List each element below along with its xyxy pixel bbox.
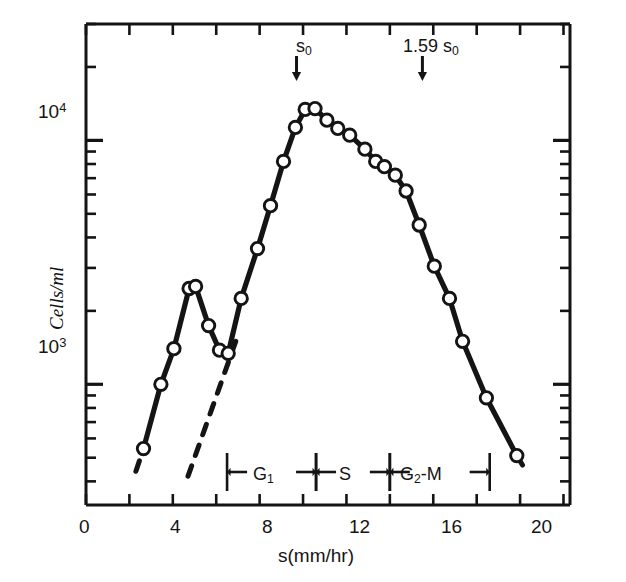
data-point: [235, 292, 247, 304]
data-point: [456, 335, 468, 347]
data-series-lines: [136, 109, 528, 477]
data-point: [511, 449, 523, 461]
data-point: [155, 378, 167, 390]
data-point: [389, 169, 401, 181]
data-point: [189, 280, 201, 292]
y-axis-title: Cells/ml: [46, 267, 68, 330]
x-tick-label-12: 12: [349, 516, 370, 538]
data-point: [359, 143, 371, 155]
plot-canvas: [0, 0, 626, 582]
s0-159-subscript: 0: [452, 44, 459, 58]
series-line-right-tail-dashed: [517, 456, 528, 474]
y-tick-exponent: 4: [59, 100, 66, 115]
data-point: [168, 343, 180, 355]
data-point: [264, 200, 276, 212]
series-line-deconvolution-guide: [188, 341, 236, 476]
data-series-markers: [137, 102, 523, 461]
data-point: [344, 129, 356, 141]
s0-subscript: 0: [305, 44, 312, 58]
data-point: [289, 121, 301, 133]
annotation-arrows: [292, 56, 427, 81]
data-point: [251, 242, 263, 254]
s0-text: s: [296, 36, 305, 56]
data-point: [277, 155, 289, 167]
data-point: [321, 114, 333, 126]
phase-label-S: S: [339, 464, 351, 485]
series-line-left-tail-dashed: [136, 449, 144, 472]
x-axis-title: s(mm/hr): [278, 545, 354, 567]
phase-label-G2M: G2-M: [400, 464, 442, 486]
figure-panel: Cells/ml 104 103 0 4 8 12 16 20 s(mm/hr)…: [0, 0, 626, 582]
series-line-cell-distribution: [144, 109, 517, 456]
phase-arrow-head: [313, 468, 317, 476]
data-point: [202, 319, 214, 331]
data-point: [332, 122, 344, 134]
axis-frame: [86, 24, 570, 505]
phase-label-G1: G1: [253, 464, 274, 486]
phase-arrow-head: [316, 468, 320, 476]
x-tick-label-20: 20: [531, 516, 552, 538]
phase-G2M-sub: 2: [414, 472, 421, 486]
s0-159-annotation-label: 1.59 s0: [403, 36, 459, 58]
figure-caption: [8, 566, 618, 582]
phase-G1-main: G: [253, 464, 267, 484]
data-point: [222, 347, 234, 359]
y-tick-exponent: 3: [59, 335, 66, 350]
x-tick-label-8: 8: [262, 516, 273, 538]
data-point: [480, 392, 492, 404]
data-point: [378, 161, 390, 173]
s0-annotation-label: s0: [296, 36, 312, 58]
y-tick-label-1e3: 103: [38, 335, 66, 358]
phase-S-main: S: [339, 464, 351, 484]
y-tick-mantissa: 10: [38, 101, 59, 122]
s0-marker-arrow-head: [292, 72, 301, 81]
axis-ticks: [86, 24, 570, 505]
x-tick-label-4: 4: [170, 516, 181, 538]
phase-arrow-head: [386, 468, 390, 476]
data-point: [183, 282, 195, 294]
data-point: [428, 260, 440, 272]
1.59-s0-marker-arrow-head: [418, 72, 427, 81]
phase-arrow-head: [486, 468, 490, 476]
phase-G1-sub: 1: [267, 472, 274, 486]
x-tick-label-0: 0: [79, 516, 90, 538]
s0-159-text: 1.59 s: [403, 36, 452, 56]
phase-G2M-tail: -M: [421, 464, 442, 484]
data-point: [213, 344, 225, 356]
phase-arrow-head: [390, 468, 394, 476]
y-tick-mantissa: 10: [38, 336, 59, 357]
y-tick-label-1e4: 104: [38, 100, 66, 123]
phase-arrow-head: [227, 468, 231, 476]
data-point: [443, 292, 455, 304]
phase-G2M-main: G: [400, 464, 414, 484]
data-point: [400, 185, 412, 197]
data-point: [299, 103, 311, 115]
data-point: [137, 442, 149, 454]
x-tick-label-16: 16: [441, 516, 462, 538]
data-point: [309, 102, 321, 114]
data-point: [370, 155, 382, 167]
data-point: [413, 219, 425, 231]
